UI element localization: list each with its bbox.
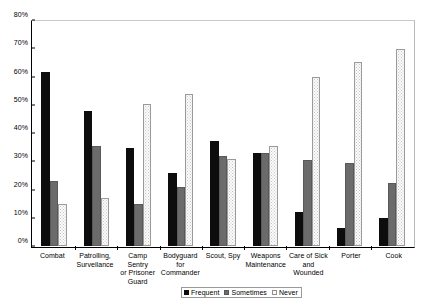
legend-label: Sometimes (231, 289, 266, 296)
bar-group (160, 21, 202, 246)
legend-swatch-icon (184, 290, 189, 295)
legend-swatch-icon (272, 290, 277, 295)
bar-sometimes[interactable] (388, 183, 396, 246)
bar-cluster (379, 21, 404, 246)
bar-frequent[interactable] (84, 111, 92, 246)
x-axis-tick-mark (202, 246, 203, 250)
bar-never[interactable] (101, 198, 109, 246)
bar-group (117, 21, 159, 246)
bar-frequent[interactable] (41, 72, 49, 246)
bar-cluster (168, 21, 193, 246)
bar-frequent[interactable] (168, 173, 176, 246)
plot-area: 0%10%20%30%40%50%60%70%80% (31, 20, 415, 248)
bar-frequent[interactable] (337, 228, 345, 246)
bar-chart: 0%10%20%30%40%50%60%70%80% CombatPatroll… (0, 0, 432, 305)
bar-sometimes[interactable] (219, 156, 227, 246)
legend-item-frequent[interactable]: Frequent (184, 289, 219, 296)
bar-never[interactable] (354, 62, 362, 246)
bar-never[interactable] (185, 94, 193, 246)
legend-swatch-icon (224, 290, 229, 295)
bar-never[interactable] (227, 159, 235, 246)
bar-cluster (295, 21, 320, 246)
bar-never[interactable] (58, 204, 66, 246)
bar-cluster (84, 21, 109, 246)
x-axis-label: Camp Sentryor PrisonerGuard (116, 252, 159, 286)
bar-frequent[interactable] (210, 141, 218, 246)
y-axis-tick-label: 60% (14, 67, 32, 74)
bar-never[interactable] (143, 104, 151, 246)
x-axis-tick-mark (371, 246, 372, 250)
x-axis-label: Cook (372, 252, 415, 286)
bar-group (244, 21, 286, 246)
legend-item-never[interactable]: Never (272, 289, 298, 296)
bar-sometimes[interactable] (177, 187, 185, 246)
bar-cluster (337, 21, 362, 246)
bar-frequent[interactable] (379, 218, 387, 246)
x-axis-label: Porter (330, 252, 373, 286)
x-axis-tick-mark (329, 246, 330, 250)
bar-group (33, 21, 75, 246)
bar-cluster (210, 21, 235, 246)
bar-groups (33, 21, 413, 246)
x-axis-label: BodyguardforCommander (159, 252, 202, 286)
bar-cluster (126, 21, 151, 246)
bar-group (329, 21, 371, 246)
bar-sometimes[interactable] (261, 153, 269, 246)
bar-sometimes[interactable] (50, 181, 58, 246)
y-axis-tick-label: 20% (14, 180, 32, 187)
bar-frequent[interactable] (295, 212, 303, 246)
bar-frequent[interactable] (253, 153, 261, 246)
x-axis-tick-mark (75, 246, 76, 250)
legend-item-sometimes[interactable]: Sometimes (224, 289, 266, 296)
bar-cluster (41, 21, 66, 246)
bar-sometimes[interactable] (134, 204, 142, 246)
x-axis-tick-mark (244, 246, 245, 250)
bar-cluster (253, 21, 278, 246)
x-axis-tick-mark (117, 246, 118, 250)
bar-sometimes[interactable] (303, 160, 311, 246)
x-axis-tick-mark (286, 246, 287, 250)
bar-frequent[interactable] (126, 148, 134, 246)
bar-group (202, 21, 244, 246)
bar-group (286, 21, 328, 246)
y-axis-tick-label: 40% (14, 124, 32, 131)
x-axis-label: WeaponsMaintenance (244, 252, 287, 286)
legend-label: Never (279, 289, 298, 296)
bar-never[interactable] (396, 49, 404, 246)
y-axis-tick-label: 30% (14, 152, 32, 159)
bar-group (371, 21, 413, 246)
y-axis-tick-label: 70% (14, 39, 32, 46)
y-axis-tick-label: 0% (18, 237, 32, 244)
bar-never[interactable] (269, 146, 277, 246)
x-axis-label: Patrolling,Surveilance (74, 252, 117, 286)
x-axis-label: Care of SickandWounded (287, 252, 330, 286)
chart-legend: FrequentSometimesNever (181, 287, 302, 298)
legend-label: Frequent (191, 289, 219, 296)
y-axis-tick-label: 80% (14, 11, 32, 18)
y-axis-tick-label: 10% (14, 208, 32, 215)
bar-sometimes[interactable] (345, 163, 353, 246)
x-axis-label: Combat (31, 252, 74, 286)
bar-never[interactable] (312, 77, 320, 246)
x-axis-tick-mark (160, 246, 161, 250)
x-axis-label: Scout, Spy (202, 252, 245, 286)
bar-sometimes[interactable] (92, 146, 100, 246)
y-axis-tick-label: 50% (14, 95, 32, 102)
x-axis-labels: CombatPatrolling,SurveilanceCamp Sentryo… (31, 252, 415, 286)
bar-group (75, 21, 117, 246)
